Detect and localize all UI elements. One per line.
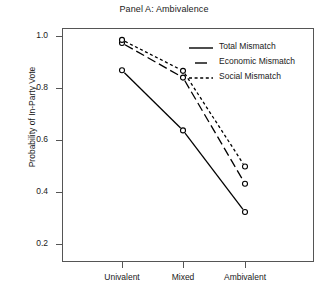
legend-line-swatch [188, 40, 214, 52]
data-point-marker [181, 68, 186, 73]
y-tick-label: 0.4 [18, 186, 48, 196]
data-point-marker [243, 164, 248, 169]
legend-label: Social Mismatch [219, 71, 281, 81]
y-tick-label: 0.6 [18, 134, 48, 144]
chart-legend: Total MismatchEconomic MismatchSocial Mi… [188, 38, 312, 83]
legend-label: Economic Mismatch [219, 56, 295, 66]
series-line [125, 45, 180, 76]
x-tick-mark [183, 262, 184, 268]
y-axis-label: Probability of In-Party Vote [27, 22, 37, 212]
y-tick-label: 0.2 [18, 238, 48, 248]
data-point-marker [243, 181, 248, 186]
data-point-marker [120, 68, 125, 73]
y-tick-label: 1.0 [18, 30, 48, 40]
series-line [125, 41, 180, 69]
x-tick-mark [245, 262, 246, 268]
chart-figure: Panel A: Ambivalence Probability of In-P… [0, 0, 328, 301]
y-tick-label: 0.8 [18, 82, 48, 92]
chart-title: Panel A: Ambivalence [0, 4, 328, 14]
data-point-marker [181, 75, 186, 80]
data-point-marker [120, 37, 125, 42]
series-line [185, 74, 243, 164]
series-line [185, 133, 243, 209]
x-tick-label: Ambivalent [200, 272, 290, 282]
data-point-marker [181, 128, 186, 133]
data-point-marker [243, 210, 248, 215]
legend-item: Social Mismatch [188, 68, 312, 83]
series-line [124, 73, 180, 128]
legend-item: Economic Mismatch [188, 53, 312, 68]
legend-line-swatch [188, 55, 214, 67]
legend-item: Total Mismatch [188, 38, 312, 53]
legend-label: Total Mismatch [219, 41, 276, 51]
series-line [185, 81, 244, 181]
legend-line-swatch [188, 70, 214, 82]
x-tick-mark [122, 262, 123, 268]
